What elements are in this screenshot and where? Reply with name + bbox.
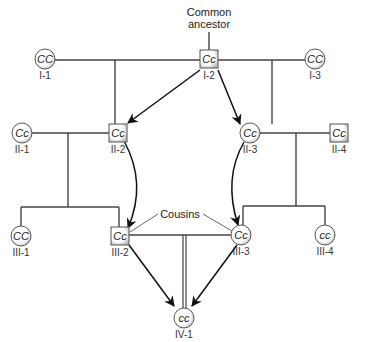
svg-text:IV-1: IV-1 <box>175 329 193 340</box>
svg-text:I-3: I-3 <box>309 70 321 81</box>
svg-text:II-2: II-2 <box>111 144 126 155</box>
svg-text:III-1: III-1 <box>12 247 30 258</box>
individual-II-1: Cc II-1 <box>12 123 32 155</box>
individual-II-3: Cc II-3 <box>240 123 260 155</box>
svg-text:CC: CC <box>13 230 29 242</box>
svg-text:Cc: Cc <box>234 229 248 241</box>
arrow-I-2-to-II-3 <box>218 70 240 124</box>
svg-text:Cc: Cc <box>202 53 216 65</box>
svg-text:Cc: Cc <box>113 230 127 242</box>
svg-text:cc: cc <box>179 312 191 324</box>
common-ancestor-label: Common <box>187 6 232 18</box>
svg-text:II-1: II-1 <box>15 144 30 155</box>
pedigree-diagram: Common ancestor Cousins CC I-1 Cc I-2 CC… <box>0 0 366 342</box>
svg-text:CC: CC <box>307 53 323 65</box>
individual-I-1: CC I-1 <box>35 49 55 81</box>
individual-IV-1: cc IV-1 <box>174 308 194 340</box>
arrow-II-2-to-III-2 <box>124 141 137 228</box>
svg-text:II-3: II-3 <box>243 144 258 155</box>
common-ancestor-label-2: ancestor <box>188 18 231 30</box>
arrow-III-2-to-IV-1 <box>129 245 174 306</box>
individual-I-2: Cc I-2 <box>200 50 218 81</box>
svg-text:Cc: Cc <box>332 127 346 139</box>
svg-text:III-3: III-3 <box>232 246 250 257</box>
individual-III-1: CC III-1 <box>11 226 31 258</box>
arrow-I-2-to-II-2 <box>128 70 200 123</box>
individual-I-3: CC I-3 <box>305 49 325 81</box>
svg-text:II-4: II-4 <box>332 144 347 155</box>
svg-text:Cc: Cc <box>111 127 125 139</box>
svg-text:cc: cc <box>320 229 332 241</box>
svg-text:Cc: Cc <box>15 127 29 139</box>
pedigree-lines <box>21 32 330 309</box>
svg-text:I-1: I-1 <box>39 70 51 81</box>
svg-text:I-2: I-2 <box>203 70 215 81</box>
individual-III-4: cc III-4 <box>315 225 335 257</box>
individual-II-2: Cc II-2 <box>109 124 127 155</box>
svg-text:CC: CC <box>37 53 53 65</box>
individual-II-4: Cc II-4 <box>330 124 348 155</box>
individual-III-2: Cc III-2 <box>111 227 129 258</box>
svg-text:III-2: III-2 <box>111 247 129 258</box>
cousins-label: Cousins <box>160 208 200 220</box>
allele-transmission-arrows <box>124 70 244 306</box>
svg-text:III-4: III-4 <box>316 246 334 257</box>
individual-III-3: Cc III-3 <box>231 225 251 257</box>
arrow-III-3-to-IV-1 <box>192 245 237 306</box>
svg-text:Cc: Cc <box>243 127 257 139</box>
